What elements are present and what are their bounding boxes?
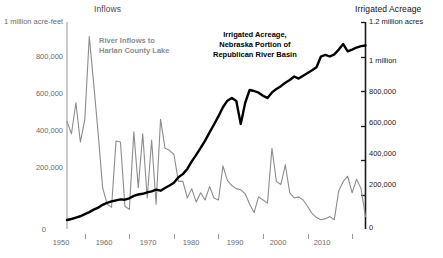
inflows-series-line — [67, 36, 366, 219]
acreage-series-line — [67, 44, 366, 220]
x-axis-tick-marks — [86, 234, 353, 239]
chart-figure: Inflows Irrigated Acreage 1 million acre… — [0, 0, 443, 258]
plot-area — [0, 0, 443, 258]
